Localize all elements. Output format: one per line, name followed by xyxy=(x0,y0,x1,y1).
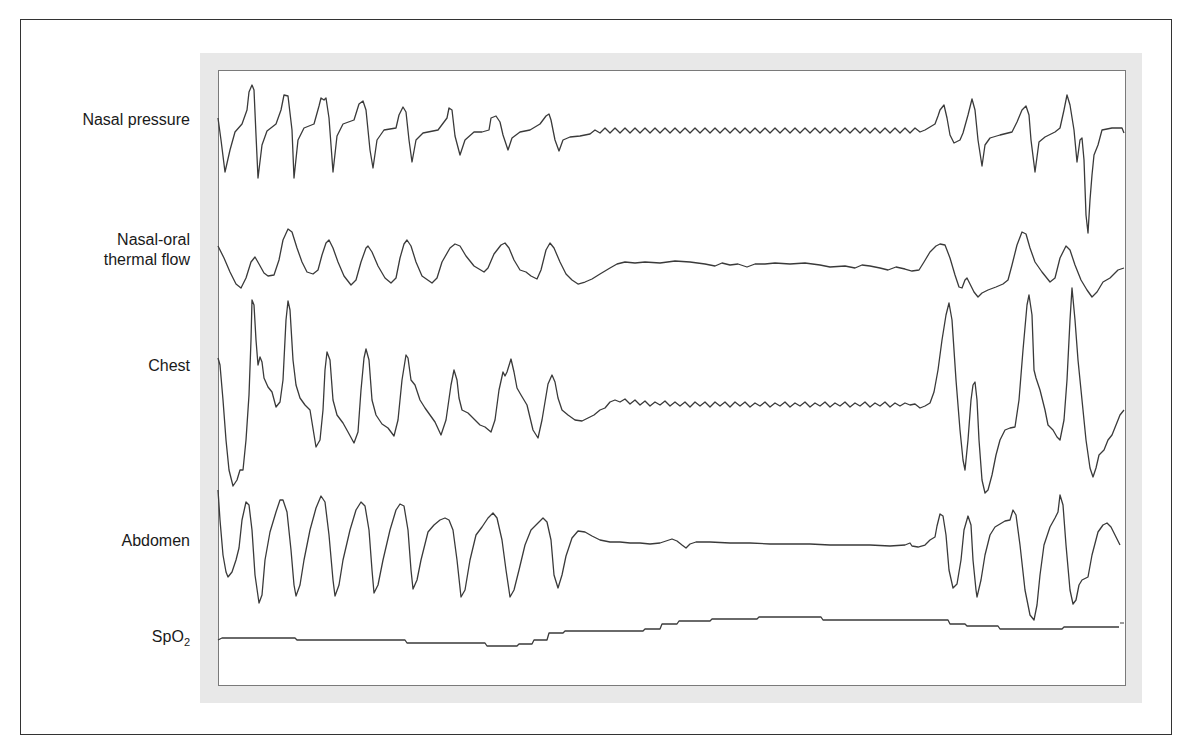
trace-nasal-pressure xyxy=(218,85,1124,233)
trace-chest xyxy=(218,288,1124,493)
waveform-traces xyxy=(0,0,1186,755)
trace-abdomen xyxy=(218,490,1120,620)
trace-thermal-flow xyxy=(218,229,1124,297)
trace-spo2 xyxy=(218,617,1119,646)
